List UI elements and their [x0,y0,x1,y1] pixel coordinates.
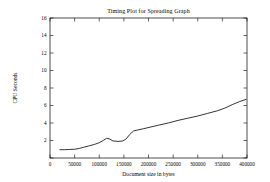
x-tick-label: 150000 [116,161,132,167]
y-axis-label: CPU Seconds [12,73,18,104]
x-tick-label: 400000 [239,161,255,167]
y-tick-label: 6 [44,102,47,108]
y-tick-label: 8 [44,85,47,91]
y-tick-label: 16 [41,15,47,21]
x-tick-label: 250000 [165,161,181,167]
y-tick-label: 10 [41,67,47,73]
x-tick-label: 50000 [68,161,81,167]
x-tick-label: 100000 [91,161,107,167]
timing-plot-figure: Timing Plot for Spreading Graph 05000010… [0,0,270,182]
y-tick-label: 4 [44,120,47,126]
y-tick-label: 12 [41,50,47,56]
x-tick-label: 0 [49,161,52,167]
x-tick-label: 350000 [215,161,231,167]
x-axis-tick-labels: 0500001000001500002000002500003000003500… [49,161,255,167]
chart-title: Timing Plot for Spreading Graph [107,8,190,14]
y-tick-label: 2 [44,137,47,143]
x-tick-label: 200000 [141,161,157,167]
chart-canvas: Timing Plot for Spreading Graph 05000010… [0,0,270,182]
chart-background [0,0,270,182]
x-axis-label: Document size in bytes [122,171,174,177]
y-tick-label: 14 [41,32,47,38]
x-tick-label: 300000 [190,161,206,167]
